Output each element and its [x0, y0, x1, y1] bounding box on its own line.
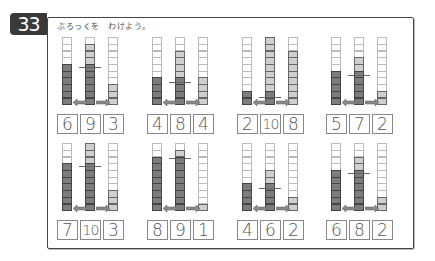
arrow-left-icon	[342, 99, 356, 105]
arrow-right-icon	[276, 99, 290, 105]
block-column	[85, 38, 95, 105]
number-box-right: 2	[372, 114, 393, 134]
arrow-left-icon	[342, 205, 356, 211]
arrow-left-icon	[253, 205, 267, 211]
split-line	[259, 188, 281, 189]
split-line	[79, 166, 101, 167]
split-line	[348, 75, 370, 76]
block-cell	[62, 98, 72, 106]
block-column	[331, 144, 341, 211]
number-box-left: 2	[237, 114, 258, 134]
split-line	[169, 158, 191, 159]
number-box-left: 6	[326, 220, 347, 240]
block-cell	[62, 204, 72, 212]
arrow-right-icon	[365, 205, 379, 211]
number-box-total: 8	[349, 220, 370, 240]
block-cell	[331, 204, 341, 212]
block-column	[242, 38, 252, 105]
arrow-left-icon	[163, 205, 177, 211]
number-box-right: 3	[103, 220, 124, 240]
block-column	[198, 144, 208, 211]
number-box-left: 4	[147, 114, 168, 134]
number-box-left: 6	[57, 114, 78, 134]
block-column	[85, 144, 95, 211]
split-line	[348, 173, 370, 174]
arrow-right-icon	[186, 99, 200, 105]
block-cell	[331, 98, 341, 106]
number-box-left: 7	[57, 220, 78, 240]
arrow-left-icon	[253, 99, 267, 105]
number-box-total: 9	[80, 114, 101, 134]
arrow-left-icon	[73, 205, 87, 211]
number-box-right: 8	[283, 114, 304, 134]
instruction-text: ぶろっくを わけよう。	[57, 20, 151, 31]
number-box-total: 10	[80, 220, 101, 240]
block-column	[377, 144, 387, 211]
arrow-left-icon	[73, 99, 87, 105]
block-cell	[152, 204, 162, 212]
block-column	[288, 38, 298, 105]
arrow-left-icon	[163, 99, 177, 105]
number-box-right: 2	[283, 220, 304, 240]
block-column	[175, 38, 185, 105]
split-line	[259, 97, 281, 98]
arrow-right-icon	[186, 205, 200, 211]
number-box-right: 2	[372, 220, 393, 240]
block-cell	[152, 98, 162, 106]
block-column	[288, 144, 298, 211]
problem-number-badge: 33	[10, 13, 47, 35]
number-box-right: 3	[103, 114, 124, 134]
arrow-right-icon	[365, 99, 379, 105]
split-line	[79, 67, 101, 68]
number-box-total: 9	[170, 220, 191, 240]
number-box-left: 8	[147, 220, 168, 240]
arrow-right-icon	[96, 99, 110, 105]
number-box-right: 4	[193, 114, 214, 134]
block-column	[354, 38, 364, 105]
block-column	[377, 38, 387, 105]
block-column	[265, 38, 275, 105]
block-column	[62, 38, 72, 105]
block-column	[175, 144, 185, 211]
block-column	[198, 38, 208, 105]
block-column	[108, 38, 118, 105]
block-cell	[242, 204, 252, 212]
number-box-left: 4	[237, 220, 258, 240]
block-column	[354, 144, 364, 211]
block-column	[242, 144, 252, 211]
block-column	[108, 144, 118, 211]
block-column	[331, 38, 341, 105]
block-column	[152, 38, 162, 105]
block-column	[152, 144, 162, 211]
arrow-right-icon	[96, 205, 110, 211]
split-line	[169, 82, 191, 83]
block-column	[62, 144, 72, 211]
number-box-total: 6	[260, 220, 281, 240]
number-box-left: 5	[326, 114, 347, 134]
number-box-total: 10	[260, 114, 281, 134]
block-column	[265, 144, 275, 211]
block-cell	[242, 98, 252, 106]
number-box-right: 1	[193, 220, 214, 240]
number-box-total: 8	[170, 114, 191, 134]
arrow-right-icon	[276, 205, 290, 211]
number-box-total: 7	[349, 114, 370, 134]
